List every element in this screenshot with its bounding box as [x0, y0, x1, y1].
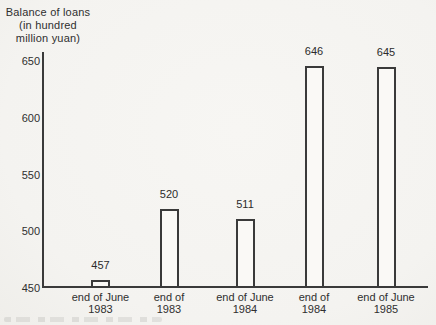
y-tick-label: 450: [0, 282, 40, 294]
bar-value-label: 457: [79, 259, 123, 272]
y-axis-line: [42, 52, 44, 288]
chart-title-line-1: Balance of loans: [2, 6, 94, 19]
bar-2: [160, 209, 179, 288]
y-tick-label: 500: [0, 225, 40, 237]
y-tick-label: 600: [0, 112, 40, 124]
x-tick-label: end of June1985: [341, 291, 431, 315]
bar-value-label: 511: [223, 198, 267, 211]
bar-5: [377, 67, 396, 288]
bar-value-label: 645: [364, 46, 408, 59]
chart-title-line-2: (in hundred: [2, 19, 94, 32]
bar-3: [236, 219, 255, 288]
bar-value-label: 646: [292, 45, 336, 58]
cut-off-caption-fragment: [4, 317, 162, 322]
scanned-bar-chart-page: Balance of loans (in hundred million yua…: [0, 0, 436, 325]
bar-4: [305, 66, 324, 288]
x-tick-label-line: end of June: [341, 291, 431, 303]
chart-title-line-3: million yuan): [2, 32, 94, 45]
y-tick-label: 650: [0, 55, 40, 67]
chart-title: Balance of loans (in hundred million yua…: [2, 6, 94, 45]
bar-1: [91, 280, 110, 288]
x-tick-label-line: 1985: [341, 303, 431, 315]
bar-value-label: 520: [147, 188, 191, 201]
y-tick-label: 550: [0, 169, 40, 181]
